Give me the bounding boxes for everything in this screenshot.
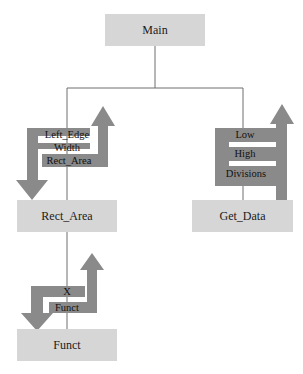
param-left-edge: Left_Edge <box>40 129 94 141</box>
module-rect-area: Rect_Area <box>17 200 117 232</box>
param-x: X <box>45 286 89 298</box>
module-main: Main <box>105 14 205 46</box>
module-get-data-label: Get_Data <box>220 209 266 224</box>
module-funct: Funct <box>17 329 117 361</box>
module-get-data: Get_Data <box>192 200 293 232</box>
module-funct-label: Funct <box>53 338 80 353</box>
param-width: Width <box>40 142 94 154</box>
param-divisions: Divisions <box>215 168 277 180</box>
param-low: Low <box>215 129 275 141</box>
param-rect-area: Rect_Area <box>40 155 98 167</box>
param-funct: Funct <box>47 302 87 314</box>
module-main-label: Main <box>142 23 167 38</box>
module-rect-area-label: Rect_Area <box>41 209 92 224</box>
param-high: High <box>215 148 275 160</box>
diagram-canvas <box>0 0 303 374</box>
